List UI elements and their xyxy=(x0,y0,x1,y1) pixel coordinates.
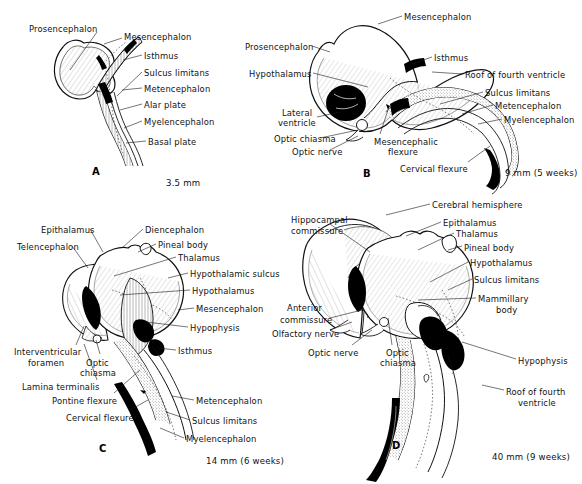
label-a-sulcus-limitans: Sulcus limitans xyxy=(144,68,209,78)
leader-line xyxy=(462,105,493,114)
leader-line xyxy=(146,322,188,327)
label-d-commissure: commissure xyxy=(291,226,343,236)
leader-line xyxy=(120,104,142,110)
label-b-optic-chiasma: Optic chiasma xyxy=(274,134,336,144)
leader-line xyxy=(70,32,97,70)
label-d-ventricle: ventricle xyxy=(518,398,556,408)
label-b-mesencephalon: Mesencephalon xyxy=(404,12,471,22)
leader-line xyxy=(448,246,462,250)
label-d-hippocampal: Hippocampal xyxy=(291,215,348,225)
leader-line xyxy=(380,110,388,134)
brain-development-figure: ProsencephalonMesencephalonIsthmusSulcus… xyxy=(0,0,582,484)
panel-letter-c: C xyxy=(99,443,106,454)
label-b-cervical-flexure: Cervical flexure xyxy=(400,164,468,174)
leader-line xyxy=(160,428,184,438)
label-c-hypothalamic-sulcus: Hypothalamic sulcus xyxy=(190,269,280,279)
label-d-commissure: commissure xyxy=(280,315,332,325)
label-d-mammillary: Mammillary xyxy=(478,294,529,304)
leader-line xyxy=(96,340,100,354)
leader-line xyxy=(178,308,194,310)
label-c-isthmus: Isthmus xyxy=(178,346,212,356)
label-c-sulcus-limitans: Sulcus limitans xyxy=(192,416,257,426)
panel-a-artwork xyxy=(54,37,143,166)
leader-line xyxy=(482,385,504,390)
leader-line xyxy=(478,119,502,124)
label-a-alar-plate: Alar plate xyxy=(144,100,186,110)
label-c-telencephalon: Telencephalon xyxy=(17,242,79,252)
label-d-cerebral-hemisphere: Cerebral hemisphere xyxy=(432,200,523,210)
label-c-pineal-body: Pineal body xyxy=(158,240,208,250)
label-d-hypothalamus: Hypothalamus xyxy=(470,258,533,268)
label-b-isthmus: Isthmus xyxy=(434,53,468,63)
label-d-olfactory-nerve: Olfactory nerve xyxy=(272,329,339,339)
panel-scale-a: 3.5 mm xyxy=(166,178,200,188)
label-c-metencephalon: Metencephalon xyxy=(196,396,262,406)
leader-line xyxy=(388,318,392,345)
label-a-mesencephalon: Mesencephalon xyxy=(124,32,191,42)
label-d-optic: Optic xyxy=(386,348,409,358)
label-d-optic-nerve: Optic nerve xyxy=(308,348,358,358)
leader-line xyxy=(330,310,362,318)
label-d-epithalamus: Epithalamus xyxy=(443,218,497,228)
leader-line xyxy=(352,330,372,345)
label-d-anterior: Anterior xyxy=(287,303,322,313)
label-c-cervical-flexure: Cervical flexure xyxy=(66,413,134,423)
label-c-interventricular: Interventricular xyxy=(14,347,81,357)
leader-line xyxy=(412,57,432,64)
label-c-foramen: foramen xyxy=(28,358,64,368)
label-c-epithalamus: Epithalamus xyxy=(41,225,95,235)
label-d-roof-of-fourth: Roof of fourth xyxy=(506,387,566,397)
leader-line xyxy=(124,121,142,128)
label-a-prosencephalon: Prosencephalon xyxy=(29,24,97,34)
label-d-body: body xyxy=(496,305,517,315)
leader-line xyxy=(432,72,463,74)
leader-line xyxy=(114,370,140,393)
label-a-basal-plate: Basal plate xyxy=(148,137,196,147)
leader-line xyxy=(418,233,454,250)
leader-line xyxy=(117,72,142,96)
label-b-optic-nerve: Optic nerve xyxy=(292,147,342,157)
leader-line xyxy=(313,73,368,87)
label-d-thalamus: Thalamus xyxy=(456,229,498,239)
label-b-hypothalamus: Hypothalamus xyxy=(249,69,312,79)
label-d-hypophysis: Hypophysis xyxy=(518,356,568,366)
leader-line xyxy=(468,146,490,162)
label-d-pineal-body: Pineal body xyxy=(464,243,514,253)
label-b-prosencephalon: Prosencephalon xyxy=(245,42,313,52)
leader-line xyxy=(462,342,516,359)
label-b-metencephalon: Metencephalon xyxy=(495,101,561,111)
label-b-ventricle: ventricle xyxy=(278,118,316,128)
leader-line xyxy=(440,92,483,104)
label-c-lamina-terminalis: Lamina terminalis xyxy=(22,382,100,392)
leader-line xyxy=(168,273,188,278)
leader-line xyxy=(122,88,142,90)
label-b-sulcus-limitans: Sulcus limitans xyxy=(485,88,550,98)
leader-line xyxy=(448,279,472,290)
label-c-diencephalon: Diencephalon xyxy=(145,225,204,235)
label-b-lateral: Lateral xyxy=(282,108,312,118)
label-d-sulcus-limitans: Sulcus limitans xyxy=(474,275,539,285)
leader-line xyxy=(166,412,190,420)
label-a-metencephalon: Metencephalon xyxy=(144,84,210,94)
label-c-thalamus: Thalamus xyxy=(178,253,220,263)
leader-line xyxy=(312,46,330,52)
label-b-flexure: flexure xyxy=(388,147,418,157)
leader-line xyxy=(158,348,176,350)
leader-line xyxy=(386,204,430,215)
leader-line xyxy=(126,141,146,143)
label-a-isthmus: Isthmus xyxy=(144,51,178,61)
label-c-hypophysis: Hypophysis xyxy=(190,323,240,333)
leader-line xyxy=(114,257,176,276)
leader-line xyxy=(104,38,122,44)
label-b-mesencephalic: Mesencephalic xyxy=(374,137,438,147)
leader-line xyxy=(406,222,441,236)
label-c-myelencephalon: Myelencephalon xyxy=(186,434,257,444)
label-c-hypothalamus: Hypothalamus xyxy=(192,286,255,296)
label-a-myelencephalon: Myelencephalon xyxy=(144,117,215,127)
leader-line xyxy=(138,244,156,252)
leader-line xyxy=(120,290,190,295)
label-c-pontine-flexure: Pontine flexure xyxy=(52,396,117,406)
label-d-chiasma: chiasma xyxy=(380,358,416,368)
label-b-roof-of-fourth-ventricle: Roof of fourth ventricle xyxy=(465,70,565,80)
panel-scale-c: 14 mm (6 weeks) xyxy=(206,456,284,466)
